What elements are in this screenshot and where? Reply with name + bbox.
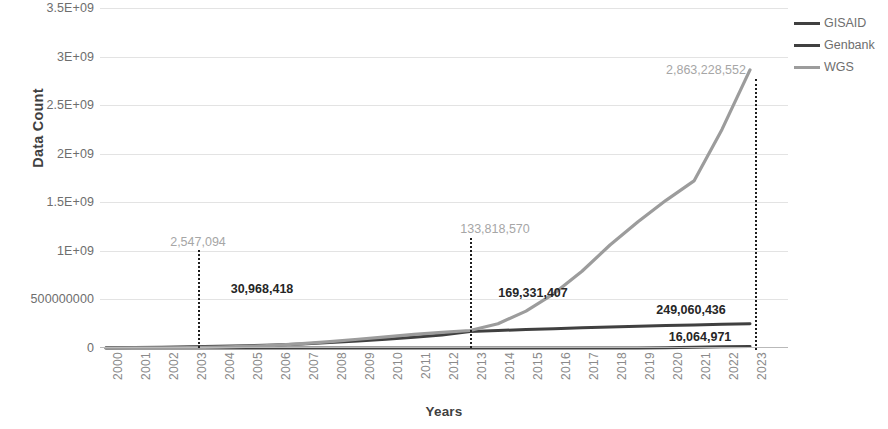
- callout-line-2013: [470, 238, 472, 348]
- legend-label: WGS: [824, 60, 854, 74]
- legend-item-gisaid[interactable]: GISAID: [794, 12, 888, 34]
- x-axis-tick-label: 2002: [167, 352, 181, 380]
- series-lines: [100, 8, 788, 348]
- x-axis-tick-label: 2015: [531, 352, 545, 380]
- annotation-label: 249,060,436: [656, 303, 726, 317]
- legend-swatch-icon: [794, 66, 820, 69]
- y-axis-tick-label: 0: [28, 341, 94, 355]
- legend-label: GISAID: [824, 16, 866, 30]
- x-axis-tick-label: 2013: [475, 352, 489, 380]
- annotation-label: 169,331,407: [498, 286, 568, 300]
- chart-container: Data Count 3.5E+093E+092.5E+092E+091.5E+…: [0, 0, 888, 429]
- legend-item-genbank[interactable]: Genbank: [794, 34, 888, 56]
- x-axis-tick-labels: 2000200120022003200420052006200720082009…: [100, 352, 788, 400]
- y-axis-tick-label: 2.5E+09: [28, 98, 94, 112]
- callout-line-2003: [198, 250, 200, 348]
- y-axis-tick-label: 1.5E+09: [28, 195, 94, 209]
- x-axis-tick-label: 2003: [195, 352, 209, 380]
- x-axis-tick-label: 2008: [335, 352, 349, 380]
- y-axis-tick-label: 500000000: [28, 292, 94, 306]
- x-axis-tick-label: 2004: [223, 352, 237, 380]
- x-axis-tick-label: 2016: [559, 352, 573, 380]
- legend-swatch-icon: [794, 22, 820, 25]
- y-axis-tick-label: 3.5E+09: [28, 1, 94, 15]
- legend-swatch-icon: [794, 44, 820, 47]
- x-axis-title: Years: [0, 404, 888, 419]
- annotation-label: 2,863,228,552: [666, 63, 746, 77]
- x-axis-tick-label: 2021: [699, 352, 713, 380]
- x-axis-tick-label: 2020: [671, 352, 685, 380]
- x-axis-tick-label: 2023: [755, 352, 769, 380]
- y-axis-tick-label: 2E+09: [28, 147, 94, 161]
- annotation-label: 16,064,971: [669, 330, 732, 344]
- plot-area: [100, 8, 788, 348]
- x-axis-tick-label: 2005: [251, 352, 265, 380]
- series-line-wgs: [106, 70, 750, 348]
- series-line-genbank: [106, 324, 750, 348]
- annotation-label: 2,547,094: [170, 235, 226, 249]
- y-axis-tick-labels: 3.5E+093E+092.5E+092E+091.5E+091E+095000…: [28, 0, 94, 360]
- chart-legend: GISAIDGenbankWGS: [794, 12, 888, 78]
- annotation-label: 133,818,570: [460, 222, 530, 236]
- x-axis-tick-label: 2019: [643, 352, 657, 380]
- x-axis-tick-label: 2009: [363, 352, 377, 380]
- x-axis-tick-label: 2022: [727, 352, 741, 380]
- x-axis-tick-label: 2007: [307, 352, 321, 380]
- x-axis-tick-label: 2018: [615, 352, 629, 380]
- x-axis-tick-label: 2012: [447, 352, 461, 380]
- x-axis-line: [100, 347, 788, 348]
- x-axis-tick-label: 2006: [279, 352, 293, 380]
- legend-label: Genbank: [824, 38, 875, 52]
- y-axis-tick-label: 1E+09: [28, 244, 94, 258]
- annotation-label: 30,968,418: [231, 282, 294, 296]
- callout-line-2023: [755, 79, 757, 350]
- x-axis-tick-label: 2010: [391, 352, 405, 380]
- x-axis-tick-label: 2017: [587, 352, 601, 380]
- x-axis-tick-label: 2014: [503, 352, 517, 380]
- x-axis-tick-label: 2011: [419, 352, 433, 379]
- legend-item-wgs[interactable]: WGS: [794, 56, 888, 78]
- y-axis-tick-label: 3E+09: [28, 50, 94, 64]
- x-axis-tick-label: 2001: [139, 352, 153, 380]
- x-axis-tick-label: 2000: [111, 352, 125, 380]
